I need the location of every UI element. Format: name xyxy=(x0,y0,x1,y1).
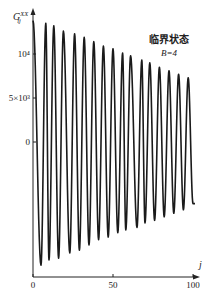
x-axis-arrow-icon xyxy=(193,275,200,280)
y-tick-label: 5×10³ xyxy=(9,93,31,103)
chart: 10⁴5×10³0 050100 GXXij j 临界状态 B=4 xyxy=(0,0,206,289)
x-tick-label: 0 xyxy=(31,280,36,289)
x-ticks: 050100 xyxy=(31,274,201,289)
y-axis-label: GXXij xyxy=(13,10,29,24)
annotation-title: 临界状态 xyxy=(149,33,189,45)
x-tick-label: 100 xyxy=(186,280,200,289)
y-tick-label: 0 xyxy=(26,137,31,147)
x-axis-label: j xyxy=(197,259,202,270)
y-axis-arrow-icon xyxy=(31,8,36,15)
y-tick-label: 10⁴ xyxy=(18,49,30,59)
annotation-param: B=4 xyxy=(161,48,178,58)
y-ticks: 10⁴5×10³0 xyxy=(9,49,36,147)
x-tick-label: 50 xyxy=(109,280,119,289)
